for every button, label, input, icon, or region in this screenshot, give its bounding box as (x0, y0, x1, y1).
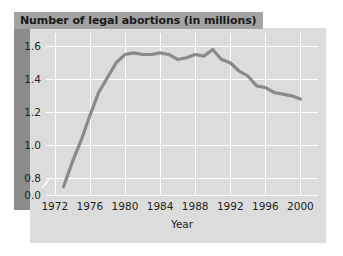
y-tick-label: 0.0 (24, 189, 41, 201)
x-tick-label: 2000 (287, 200, 314, 212)
x-tick-label: 1972 (41, 200, 68, 212)
axis-break-icon (41, 176, 52, 189)
y-tick-label: 0.8 (24, 172, 41, 184)
x-tick-label: 1992 (217, 200, 244, 212)
y-tick-label: 1.4 (24, 73, 41, 85)
x-tick-label: 1984 (147, 200, 174, 212)
x-axis-label: Year (46, 218, 318, 230)
chart-title: Number of legal abortions (in millions) (20, 14, 257, 27)
gridline-horizontal (46, 195, 318, 196)
y-tick-label: 1.6 (24, 40, 41, 52)
x-tick-label: 1988 (182, 200, 209, 212)
y-tick-label: 1.2 (24, 106, 41, 118)
x-tick-label: 1980 (112, 200, 139, 212)
x-tick-label: 1996 (252, 200, 279, 212)
y-tick-label: 1.0 (24, 139, 41, 151)
chart-title-banner: Number of legal abortions (in millions) (14, 12, 263, 29)
x-tick-label: 1976 (76, 200, 103, 212)
chart-figure: Number of legal abortions (in millions) … (0, 0, 343, 256)
plot-area: 0.00.81.01.21.41.6 197219761980198419881… (46, 33, 318, 195)
data-series-line (46, 33, 318, 195)
